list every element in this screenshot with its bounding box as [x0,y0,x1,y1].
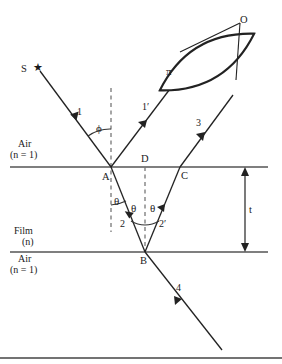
medium-film-line2: (n) [22,237,34,248]
ray-1-label: 1 [77,107,82,118]
thickness-arrow-up [241,167,249,176]
point-c-label: C [181,170,188,181]
thickness-label: t [249,204,252,215]
ray-3-label: 3 [196,118,201,129]
source-label: S [21,63,27,74]
ray-3-line [180,95,233,167]
ray-2-line [111,167,145,252]
angle-phi-label: ϕ [96,123,102,135]
point-b-label: B [140,255,147,266]
lens-label: π [166,66,172,78]
observer-label: O [240,14,248,25]
ray-4-line [145,252,222,350]
medium-film-line1: Film [14,226,33,237]
point-a-label: A [102,171,110,182]
angle-theta-b-left-label: θ [131,203,136,215]
ray-4-label: 4 [176,283,181,294]
angle-theta-a-label: θ [114,196,119,208]
diagram-canvas [0,0,282,364]
ray-2p-arrowhead [157,204,165,212]
medium-bottom-line2: (n = 1) [10,265,37,276]
ray-1p-label: 1′ [142,102,149,113]
point-d-label: D [141,153,149,164]
thickness-arrow-down [241,243,249,252]
ray-2-label: 2 [120,219,125,230]
medium-bottom-line1: Air [18,254,31,265]
ray-1p-arrowhead [138,120,147,128]
star-icon: ★ [33,62,43,74]
angle-theta-b-right-label: θ [150,203,155,215]
medium-top-line1: Air [18,139,31,150]
ray-2p-label: 2′ [159,219,166,230]
medium-top-line2: (n = 1) [10,150,37,161]
thin-film-interference-diagram: S ★ 1 ϕ 1′ π O 3 Air (n = 1) A D C B θ θ… [0,0,282,364]
